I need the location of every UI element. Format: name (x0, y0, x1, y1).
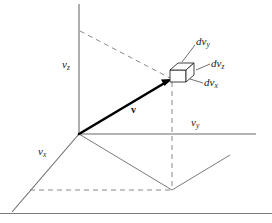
base-edge-right (172, 155, 230, 190)
axis-label-vy: vy (191, 117, 199, 130)
velocity-vector (79, 79, 172, 134)
axis-label-vy-sub: y (196, 121, 199, 130)
diagram-canvas (0, 0, 272, 223)
leader-dvz (196, 64, 210, 70)
vector-shaft (79, 81, 168, 134)
vector-label-v: v (131, 104, 136, 115)
leader-dvy (182, 45, 195, 62)
axis-label-vz-sub: z (67, 63, 70, 72)
element-label-dvx-main: dv (204, 76, 214, 88)
dashed-z-to-tip (80, 31, 170, 78)
base-plane-edges (79, 134, 230, 190)
box-front-face (170, 70, 186, 82)
axis-label-vx: vx (38, 146, 46, 159)
element-label-dvz-sub: z (221, 62, 224, 71)
element-label-dvz: dvz (211, 58, 224, 71)
base-edge-left (79, 134, 172, 190)
element-label-dvy: dvy (196, 36, 210, 49)
element-label-dvy-main: dv (196, 35, 206, 47)
element-label-dvx-sub: x (214, 81, 217, 90)
axis-label-vx-sub: x (43, 150, 46, 159)
velocity-space-diagram: vz vy vx dvy dvz dvx v (0, 0, 272, 223)
axis-label-vz: vz (62, 59, 70, 72)
element-label-dvx: dvx (204, 77, 218, 90)
element-label-dvz-main: dv (211, 57, 221, 69)
element-label-dvy-sub: y (206, 40, 209, 49)
leader-dvx (190, 79, 203, 83)
